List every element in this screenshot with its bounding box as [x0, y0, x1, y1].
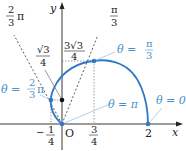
- tick-three-quarters-den: 4: [91, 136, 97, 147]
- label-theta-pi3-prefix: θ =: [117, 43, 136, 56]
- tick-neg-sign: −: [36, 127, 44, 138]
- leader-theta-pi: [62, 104, 110, 124]
- ray-pi3-den: 3: [111, 17, 117, 28]
- tick-neg-quarter-den: 4: [48, 136, 54, 147]
- label-theta-2pi3-pi: π: [37, 83, 44, 96]
- tick-two: 2: [145, 127, 152, 140]
- x-axis-label: x: [172, 126, 179, 139]
- marker-sqrt3-den: 4: [40, 57, 46, 68]
- label-theta-pi3-num: π: [146, 38, 153, 49]
- ray-2pi3-pi: π: [17, 10, 24, 23]
- ray-2pi3-num: 2: [8, 4, 14, 15]
- marker-3sqrt3-num: 3√3: [64, 40, 83, 51]
- point-theta-pi3: [92, 59, 97, 64]
- label-theta-pi: θ = π: [108, 98, 139, 111]
- label-theta-pi3-den: 3: [146, 50, 152, 61]
- leader-sqrt3-over-4: [45, 70, 62, 100]
- point-theta-2pi3: [49, 98, 54, 103]
- label-theta-0: θ = 0: [156, 94, 186, 107]
- ray-pi3-num: π: [111, 4, 118, 15]
- polar-curve: [51, 60, 148, 124]
- ray-2pi3-den: 3: [8, 17, 14, 28]
- leader-theta-0: [148, 108, 162, 124]
- point-theta-pi: [60, 122, 65, 127]
- y-axis-label: y: [49, 2, 57, 15]
- origin-label: O: [65, 127, 74, 140]
- label-theta-2pi3-num: 2: [29, 77, 35, 88]
- label-theta-2pi3-den: 3: [29, 89, 35, 100]
- tick-three-quarters-num: 3: [91, 124, 97, 135]
- point-y-sqrt3-over-4: [60, 98, 65, 103]
- marker-3sqrt3-den: 4: [71, 51, 77, 62]
- label-theta-2pi3-prefix: θ =: [1, 83, 20, 96]
- point-theta-0: [146, 122, 151, 127]
- marker-sqrt3-num: √3: [37, 44, 50, 55]
- tick-neg-quarter-num: 1: [48, 124, 54, 135]
- polar-diagram: x y O − 1 4 3 4 2 √3 4 3√3 4 π 3 2 3 π θ…: [0, 0, 186, 151]
- y-axis-arrow-icon: [60, 2, 65, 9]
